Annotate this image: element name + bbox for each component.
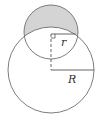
label-r: r <box>61 36 67 49</box>
label-R: R <box>67 73 76 86</box>
diagram-canvas: r R <box>0 0 100 121</box>
right-angle-marker <box>51 34 55 38</box>
